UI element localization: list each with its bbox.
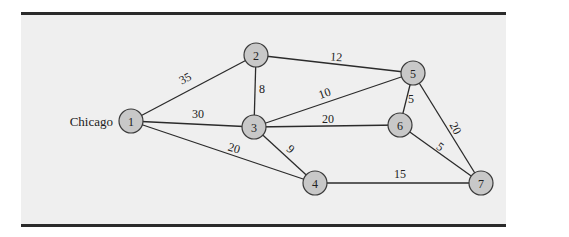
origin-city-label: Chicago [70, 114, 113, 129]
edge-weight-label: 20 [447, 120, 465, 137]
node-4: 4 [303, 171, 327, 195]
edge-5-7 [413, 73, 481, 183]
node-2: 2 [244, 43, 268, 67]
edge-weight-label: 30 [192, 107, 204, 121]
node-label: 2 [253, 49, 259, 63]
node-label: 5 [410, 67, 416, 81]
node-6: 6 [388, 113, 412, 137]
edge-weight-label: 9 [284, 142, 298, 156]
node-label: 4 [312, 177, 318, 191]
edge-6-7 [400, 125, 481, 183]
edge-weight-label: 35 [177, 69, 194, 87]
edge-weight-label: 12 [330, 50, 343, 65]
node-3: 3 [242, 115, 266, 139]
node-label: 6 [397, 119, 403, 133]
network-diagram: 35302081210209520515 1234567 Chicago [0, 0, 569, 237]
edge-weight-label: 5 [408, 92, 414, 106]
edge-weight-label: 20 [322, 112, 334, 126]
nodes-layer: 1234567 [119, 43, 493, 195]
edge-weight-label: 10 [317, 85, 333, 102]
node-7: 7 [469, 171, 493, 195]
edge-1-3 [131, 121, 254, 127]
node-label: 7 [478, 177, 484, 191]
node-label: 1 [128, 115, 134, 129]
node-label: 3 [251, 121, 257, 135]
edge-weight-label: 15 [394, 167, 406, 181]
edge-weight-label: 8 [259, 82, 265, 96]
node-5: 5 [401, 61, 425, 85]
edge-weight-label: 5 [434, 139, 447, 154]
node-1: 1 [119, 109, 143, 133]
